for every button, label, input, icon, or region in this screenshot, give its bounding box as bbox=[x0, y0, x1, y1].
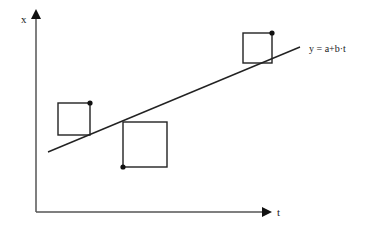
data-point bbox=[269, 30, 274, 35]
equation-label: y = a+b·t bbox=[309, 43, 346, 54]
x-axis-label: t bbox=[277, 206, 280, 218]
square-left bbox=[58, 100, 93, 135]
regression-diagram: x t y = a+b·t bbox=[0, 0, 365, 226]
axes: x t bbox=[21, 9, 280, 218]
y-axis-label: x bbox=[21, 13, 27, 25]
x-axis-arrow-icon bbox=[262, 207, 272, 217]
data-point bbox=[87, 100, 92, 105]
y-axis-arrow-icon bbox=[31, 9, 41, 19]
square-middle bbox=[120, 122, 167, 170]
data-point bbox=[120, 164, 125, 169]
square-top-right bbox=[243, 30, 275, 63]
